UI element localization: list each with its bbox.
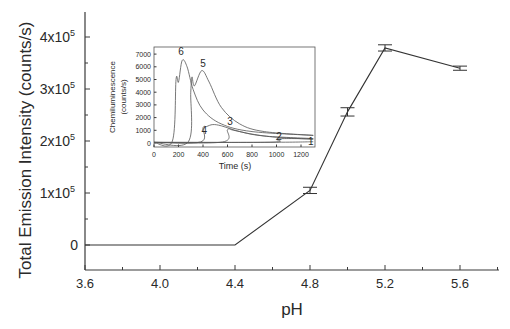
inset-curve-label: 4 — [201, 125, 207, 136]
x-tick-label: 4.8 — [301, 276, 319, 291]
inset-y-tick-label: 7000 — [135, 51, 151, 58]
inset-x-tick-label: 1000 — [269, 151, 285, 158]
inset-curve-label: 5 — [200, 58, 206, 69]
inset-curve-label: 3 — [227, 116, 233, 127]
inset-y-tick-label: 0 — [147, 140, 151, 147]
inset-x-tick-label: 400 — [197, 151, 209, 158]
inset-curve-label: 1 — [308, 136, 314, 147]
x-tick-label: 4.4 — [226, 276, 244, 291]
inset-curve-label: 2 — [276, 131, 282, 142]
y-axis-label: Total Emission Intensity (counts/s) — [16, 22, 35, 279]
inset-x-tick-label: 800 — [246, 151, 258, 158]
inset-y-axis-label: Chemiluminescence — [108, 60, 117, 133]
inset-y-tick-label: 3000 — [135, 101, 151, 108]
inset-x-axis-label: Time (s) — [219, 161, 252, 171]
inset-y-tick-label: 4000 — [135, 89, 151, 96]
y-tick-label: 0 — [70, 237, 78, 253]
inset-frame — [154, 47, 315, 147]
x-axis-label: pH — [281, 300, 303, 319]
inset-x-tick-label: 600 — [222, 151, 234, 158]
inset-plot: 0200400600800100012000100020003000400050… — [135, 46, 315, 158]
x-tick-label: 5.6 — [451, 276, 469, 291]
inset-x-tick-label: 0 — [152, 151, 156, 158]
inset-y-tick-label: 6000 — [135, 63, 151, 70]
inset-y-tick-label: 5000 — [135, 76, 151, 83]
y-tick-label: 4x105 — [40, 28, 75, 45]
inset-y-tick-label: 1000 — [135, 127, 151, 134]
inset-y-tick-label: 2000 — [135, 114, 151, 121]
x-tick-label: 3.6 — [76, 276, 94, 291]
chart: 3.64.04.44.85.25.601x1052x1053x1054x105 … — [0, 0, 510, 329]
y-tick-label: 3x105 — [40, 80, 75, 97]
x-tick-label: 4.0 — [151, 276, 169, 291]
inset-y-axis-label-units: (counts/s) — [119, 79, 128, 114]
y-tick-label: 1x105 — [40, 184, 75, 201]
inset-x-tick-label: 200 — [173, 151, 185, 158]
inset-curve-label: 6 — [178, 46, 184, 57]
inset-x-tick-label: 1200 — [293, 151, 309, 158]
y-tick-label: 2x105 — [40, 132, 75, 149]
x-tick-label: 5.2 — [376, 276, 394, 291]
